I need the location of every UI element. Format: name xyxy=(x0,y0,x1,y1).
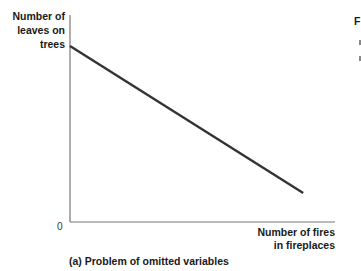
x-axis-label: Number of fires in fireplaces xyxy=(257,226,335,252)
negative-relationship-line xyxy=(70,46,303,193)
chart-caption: (a) Problem of omitted variables xyxy=(69,255,229,267)
cutoff-adjacent-panel-text: F xyxy=(354,15,360,27)
y-axis-label: Number of leaves on trees xyxy=(13,9,66,51)
origin-label: 0 xyxy=(57,221,63,232)
